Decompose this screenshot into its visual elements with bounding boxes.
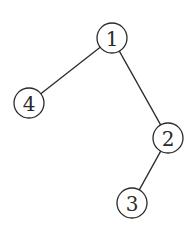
edge-1-4 [41, 47, 100, 94]
node-2: 2 [153, 123, 183, 153]
node-label: 1 [106, 27, 119, 51]
node-label: 3 [126, 192, 139, 216]
edge-2-3 [139, 151, 160, 190]
edge-1-2 [119, 51, 160, 125]
edges [41, 47, 161, 190]
tree-diagram: 1423 [0, 0, 193, 229]
node-3: 3 [117, 188, 147, 218]
node-4: 4 [14, 88, 44, 118]
node-label: 4 [23, 92, 36, 116]
node-label: 2 [162, 127, 175, 151]
node-1: 1 [97, 23, 127, 53]
